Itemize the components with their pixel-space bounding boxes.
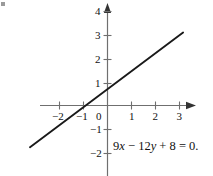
x-tick-label-1: 1 [129,111,135,122]
x-tick-label-2: 2 [153,111,159,122]
equation-term-3: 8 [170,139,176,153]
equation-plus-operator: + [159,139,166,153]
y-tick-label-4: 4 [95,6,101,17]
equation-minus-operator: − [128,139,135,153]
equation-right-hand-side: 0. [189,139,198,153]
x-tick-label--1: −1 [76,111,88,122]
equation-term-2-var: y [151,139,157,153]
y-tick-label--1: −1 [90,124,102,135]
equation-term-1-var: x [119,139,125,153]
equation-term-2-coeff: 12 [138,139,151,153]
x-tick-label-3: 3 [177,111,183,122]
x-axis-arrowhead-icon [186,102,196,109]
y-tick-label--2: −2 [90,148,102,159]
x-tick-label-0: 0 [96,111,102,122]
y-tick-label-2: 2 [95,54,101,65]
y-tick-label-1: 1 [95,78,101,89]
x-axis [40,102,196,109]
y-tick-label-3: 3 [95,30,101,41]
equation-equals-operator: = [179,139,186,153]
graph-figure: −2 −1 0 1 2 3 4 3 2 1 −1 −2 9x − 12y + 8… [0,0,213,176]
x-tick-label--2: −2 [52,111,64,122]
equation-caption: 9x − 12y + 8 = 0. [113,139,198,153]
